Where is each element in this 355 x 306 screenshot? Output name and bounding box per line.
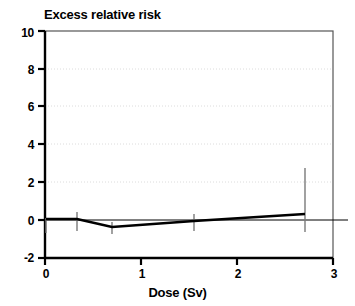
ytick-label-6: 6	[6, 100, 34, 114]
error-bars	[46, 168, 305, 234]
chart-figure: Excess relative risk	[0, 0, 355, 306]
y-axis	[38, 31, 45, 258]
chart-plot-svg	[0, 0, 355, 306]
x-axis-title: Dose (Sv)	[0, 285, 355, 300]
ytick-label-2: 2	[6, 176, 34, 190]
xtick-label-2: 2	[226, 267, 250, 281]
ytick-label-neg2: -2	[6, 251, 34, 265]
x-axis	[45, 258, 333, 265]
ytick-label-10: 10	[6, 26, 34, 40]
xtick-label-3: 3	[322, 267, 346, 281]
ytick-label-4: 4	[6, 138, 34, 152]
ytick-label-0: 0	[6, 214, 34, 228]
xtick-label-0: 0	[34, 267, 58, 281]
xtick-label-1: 1	[130, 267, 154, 281]
ytick-label-8: 8	[6, 63, 34, 77]
gridlines	[45, 69, 333, 182]
